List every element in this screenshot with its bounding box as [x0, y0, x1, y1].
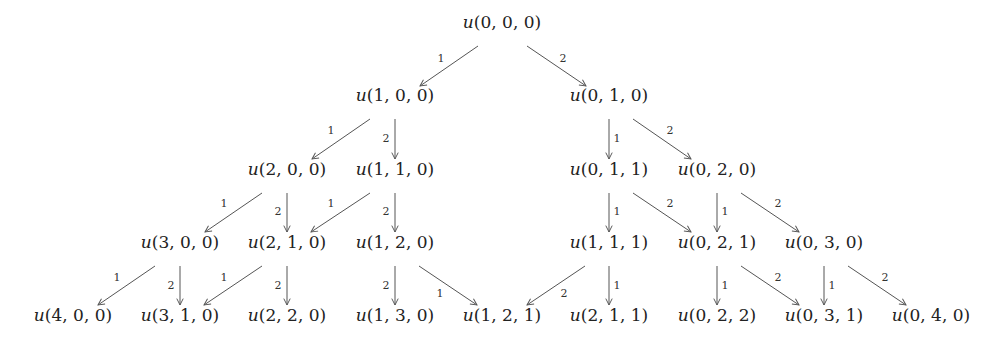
- tree-node-u-011: u(0, 1, 1): [570, 159, 648, 179]
- edge-label: 1: [221, 271, 228, 284]
- tree-node-u-211: u(2, 1, 1): [570, 305, 648, 325]
- edge-arrow-000-to-010: [527, 46, 586, 86]
- node-arguments: (1, 1, 0): [367, 159, 434, 179]
- edge-label: 1: [328, 197, 335, 210]
- node-arguments: (0, 0, 0): [474, 12, 541, 32]
- edge-label: 2: [560, 52, 567, 65]
- edge-label: 2: [383, 205, 390, 218]
- tree-node-u-210: u(2, 1, 0): [248, 232, 326, 252]
- tree-node-u-020: u(0, 2, 0): [678, 159, 756, 179]
- node-arguments: (0, 2, 1): [689, 232, 756, 252]
- node-function-name: u: [785, 232, 796, 252]
- edge-arrow-030-to-040: [848, 266, 906, 305]
- node-function-name: u: [141, 305, 152, 325]
- node-arguments: (4, 0, 0): [45, 305, 112, 325]
- node-arguments: (1, 2, 0): [367, 232, 434, 252]
- node-arguments: (2, 1, 0): [259, 232, 326, 252]
- edge-label: 2: [775, 197, 782, 210]
- node-function-name: u: [678, 305, 689, 325]
- tree-node-u-120: u(1, 2, 0): [356, 232, 434, 252]
- tree-node-u-300: u(3, 0, 0): [141, 232, 219, 252]
- tree-node-u-021: u(0, 2, 1): [678, 232, 756, 252]
- node-function-name: u: [34, 305, 45, 325]
- node-arguments: (2, 1, 1): [581, 305, 648, 325]
- node-function-name: u: [785, 305, 796, 325]
- edge-arrow-100-to-200: [312, 119, 370, 159]
- edge-label: 2: [383, 132, 390, 145]
- tree-node-u-030: u(0, 3, 0): [785, 232, 863, 252]
- edge-arrow-120-to-121: [419, 266, 477, 305]
- node-function-name: u: [570, 85, 581, 105]
- node-arguments: (3, 1, 0): [152, 305, 219, 325]
- node-arguments: (0, 2, 2): [689, 305, 756, 325]
- node-function-name: u: [356, 159, 367, 179]
- node-arguments: (0, 3, 1): [796, 305, 863, 325]
- recursion-tree-diagram: 12121212121212121221211212 u(0, 0, 0)u(1…: [0, 0, 1001, 348]
- edge-label: 1: [614, 279, 621, 292]
- edge-arrow-110-to-210: [311, 193, 370, 232]
- edge-label: 2: [667, 124, 674, 137]
- node-function-name: u: [678, 159, 689, 179]
- edge-label: 2: [667, 197, 674, 210]
- node-arguments: (1, 2, 1): [474, 305, 541, 325]
- node-arguments: (2, 2, 0): [259, 305, 326, 325]
- node-arguments: (1, 0, 0): [367, 85, 434, 105]
- node-arguments: (0, 2, 0): [689, 159, 756, 179]
- node-function-name: u: [570, 159, 581, 179]
- edge-label: 2: [275, 205, 282, 218]
- edge-label: 2: [775, 271, 782, 284]
- edge-label: 1: [437, 287, 444, 300]
- node-function-name: u: [248, 305, 259, 325]
- node-function-name: u: [463, 305, 474, 325]
- node-function-name: u: [678, 232, 689, 252]
- node-function-name: u: [248, 232, 259, 252]
- edge-arrow-210-to-310: [204, 266, 262, 305]
- edge-label: 1: [328, 124, 335, 137]
- edge-label: 2: [275, 279, 282, 292]
- edge-arrow-111-to-121: [527, 266, 585, 305]
- edge-label: 1: [829, 279, 836, 292]
- tree-node-u-310: u(3, 1, 0): [141, 305, 219, 325]
- edge-arrow-011-to-021: [633, 193, 691, 232]
- edge-label: 2: [168, 279, 175, 292]
- tree-node-u-121: u(1, 2, 1): [463, 305, 541, 325]
- node-function-name: u: [463, 12, 474, 32]
- edge-arrow-000-to-100: [420, 46, 478, 86]
- edge-label: 1: [114, 271, 121, 284]
- edge-arrow-300-to-400: [98, 266, 155, 305]
- tree-node-u-000: u(0, 0, 0): [463, 12, 541, 32]
- tree-node-u-110: u(1, 1, 0): [356, 159, 434, 179]
- node-arguments: (2, 0, 0): [259, 159, 326, 179]
- edge-arrow-021-to-031: [741, 266, 799, 305]
- edge-label: 1: [614, 132, 621, 145]
- edge-label: 2: [882, 271, 889, 284]
- edge-arrow-020-to-030: [741, 193, 799, 232]
- tree-node-u-100: u(1, 0, 0): [356, 85, 434, 105]
- edge-labels-layer: 12121212121212121221211212: [114, 52, 889, 300]
- node-arguments: (1, 1, 1): [581, 232, 648, 252]
- tree-node-u-130: u(1, 3, 0): [356, 305, 434, 325]
- node-arguments: (1, 3, 0): [367, 305, 434, 325]
- tree-node-u-200: u(2, 0, 0): [248, 159, 326, 179]
- node-function-name: u: [570, 305, 581, 325]
- node-arguments: (0, 3, 0): [796, 232, 863, 252]
- node-function-name: u: [356, 85, 367, 105]
- node-arguments: (0, 1, 1): [581, 159, 648, 179]
- edge-label: 2: [383, 279, 390, 292]
- node-arguments: (3, 0, 0): [152, 232, 219, 252]
- edge-label: 1: [614, 205, 621, 218]
- node-function-name: u: [570, 232, 581, 252]
- edge-label: 2: [561, 287, 568, 300]
- tree-node-u-040: u(0, 4, 0): [892, 305, 970, 325]
- tree-node-u-400: u(4, 0, 0): [34, 305, 112, 325]
- node-function-name: u: [892, 305, 903, 325]
- edge-label: 1: [221, 197, 228, 210]
- node-function-name: u: [356, 305, 367, 325]
- node-function-name: u: [356, 232, 367, 252]
- tree-node-u-010: u(0, 1, 0): [570, 85, 648, 105]
- edges-layer: [98, 46, 906, 305]
- node-function-name: u: [141, 232, 152, 252]
- tree-node-u-022: u(0, 2, 2): [678, 305, 756, 325]
- edge-label: 1: [438, 52, 445, 65]
- tree-node-u-031: u(0, 3, 1): [785, 305, 863, 325]
